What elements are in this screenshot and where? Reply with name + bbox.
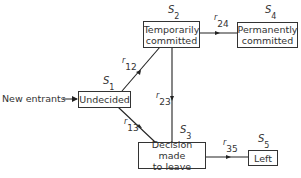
state-decision-line2: to leave <box>153 161 191 172</box>
arrowhead-r35 <box>226 155 231 159</box>
rate-label-r13: r13 <box>124 117 139 129</box>
state-undecided-label: Undecided <box>79 94 130 105</box>
rate-label-r23: r23 <box>156 91 171 103</box>
state-label-s1: S1 <box>103 75 114 89</box>
new-entrants-label: New entrants <box>2 93 66 104</box>
state-temporarily-line2: committed <box>146 35 198 46</box>
state-decision-to-leave: Decision made to leave <box>138 142 206 169</box>
state-temporarily-line1: Temporarily <box>144 24 200 35</box>
state-permanently-committed: Permanently committed <box>237 22 298 48</box>
state-left-label: Left <box>254 153 272 164</box>
state-temporarily-committed: Temporarily committed <box>143 21 200 48</box>
state-permanently-line2: committed <box>242 35 294 46</box>
state-undecided: Undecided <box>78 91 131 108</box>
rate-label-r12: r12 <box>122 56 137 68</box>
state-permanently-line1: Permanently <box>238 24 298 35</box>
state-decision-line1: Decision made <box>139 139 205 161</box>
state-left: Left <box>248 150 278 166</box>
arrowhead-r24 <box>215 31 220 35</box>
state-label-s5: S5 <box>258 133 269 147</box>
rate-label-r24: r24 <box>214 13 229 25</box>
state-label-s4: S4 <box>265 4 276 18</box>
state-label-s2: S2 <box>168 4 179 18</box>
rate-label-r35: r35 <box>223 138 238 150</box>
state-label-s3: S3 <box>180 124 191 138</box>
